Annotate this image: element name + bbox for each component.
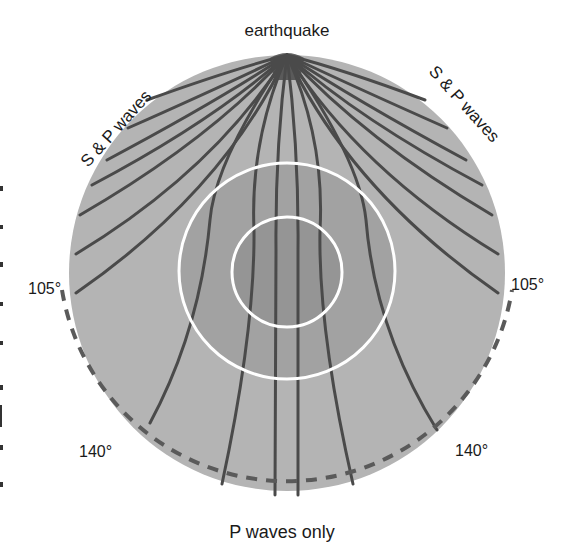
- earthquake-label: earthquake: [244, 21, 329, 40]
- angle-105-right-label: 105°: [511, 276, 544, 293]
- p-waves-only-label: P waves only: [229, 522, 335, 542]
- angle-140-right-label: 140°: [455, 442, 488, 459]
- earthquake-focus: [270, 53, 304, 80]
- angle-105-left-label: 105°: [28, 280, 61, 297]
- angle-140-left-label: 140°: [79, 443, 112, 460]
- seismic-shadow-zone-diagram: earthquake S & P waves S & P waves 105° …: [0, 0, 569, 550]
